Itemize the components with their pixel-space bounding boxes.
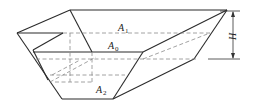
- height-arrow-top: [231, 11, 235, 17]
- a1-label: A: [117, 22, 125, 33]
- left-inner-flap-down: [33, 50, 48, 80]
- a2-subscript: 2: [103, 89, 107, 97]
- hidden-right-slant: [143, 33, 210, 59]
- left-outer-edge: [17, 33, 62, 99]
- hidden-left-slant-2: [52, 60, 80, 75]
- hopper-diagram: H A 1 A 0 A 2: [0, 0, 255, 111]
- top-left-edge: [17, 10, 70, 33]
- left-inner-flap-slant: [33, 33, 63, 50]
- a0-subscript: 0: [115, 45, 119, 53]
- height-label: H: [227, 31, 238, 40]
- height-dimension: H: [208, 11, 240, 59]
- back-left-vertical: [70, 10, 92, 52]
- upper-right-slant: [143, 10, 227, 52]
- a0-label: A: [107, 40, 115, 51]
- a2-label: A: [95, 84, 103, 95]
- dashed-edges: [36, 33, 210, 82]
- hidden-left-slant: [50, 57, 96, 82]
- height-arrow-bottom: [231, 53, 235, 59]
- right-side-edge: [194, 10, 227, 59]
- a1-subscript: 1: [125, 27, 129, 35]
